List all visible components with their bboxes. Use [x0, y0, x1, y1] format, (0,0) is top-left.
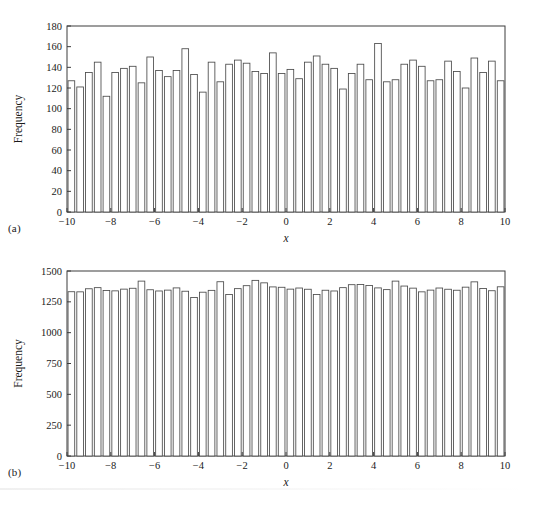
histogram-bar — [94, 62, 101, 212]
histogram-bar — [418, 66, 425, 212]
histogram-bar — [418, 292, 425, 456]
x-axis-title: x — [282, 476, 289, 488]
histogram-bar — [340, 288, 347, 456]
histogram-bar — [68, 292, 75, 456]
histogram-bar — [401, 64, 408, 212]
histogram-bar — [164, 77, 171, 212]
histogram-bar — [313, 294, 320, 456]
x-tick-label: 4 — [371, 216, 377, 227]
x-axis-title: x — [282, 232, 289, 244]
x-tick-label: 6 — [415, 460, 420, 471]
histogram-bar — [427, 290, 434, 456]
histogram-bar — [366, 80, 373, 212]
histogram-bar — [296, 288, 303, 456]
histogram-bar — [497, 81, 504, 212]
x-tick-label: −4 — [193, 216, 205, 227]
histogram-bar — [112, 73, 119, 213]
histogram-bar — [243, 286, 250, 456]
y-tick-label: 1500 — [41, 266, 62, 277]
histogram-bar — [348, 74, 355, 212]
x-tick-label: 2 — [327, 216, 332, 227]
histogram-bar — [453, 290, 460, 456]
x-tick-label: 0 — [283, 460, 288, 471]
histogram-bar — [121, 68, 128, 212]
histogram-bar — [234, 60, 241, 212]
histogram-bar — [252, 71, 259, 212]
histogram-bar — [357, 64, 364, 212]
panel-b-label: (b) — [8, 466, 21, 478]
y-tick-label: 500 — [46, 389, 62, 400]
histogram-bar — [313, 56, 320, 212]
histogram-bar — [94, 288, 101, 456]
histogram-bar — [103, 96, 110, 212]
histogram-bar — [77, 292, 84, 456]
x-tick-label: 8 — [459, 216, 464, 227]
chart-panel-a: (a) −10−8−6−4−20246810020406080100120140… — [0, 0, 536, 256]
x-tick-label: 4 — [371, 460, 377, 471]
x-tick-label: 6 — [415, 216, 420, 227]
histogram-bar — [436, 80, 443, 212]
histogram-bar — [191, 298, 198, 456]
histogram-bar — [453, 71, 460, 212]
x-tick-label: −4 — [193, 460, 205, 471]
histogram-bar — [480, 73, 487, 213]
histogram-bar — [357, 284, 364, 456]
x-tick-label: −6 — [149, 216, 160, 227]
histogram-bar — [471, 58, 478, 212]
histogram-bar — [296, 79, 303, 212]
histogram-bar — [191, 75, 198, 212]
histogram-bar — [217, 282, 224, 456]
histogram-bar — [243, 63, 250, 212]
histogram-bar — [305, 62, 312, 212]
histogram-bar — [77, 87, 84, 212]
y-tick-label: 250 — [46, 420, 62, 431]
histogram-bar — [103, 290, 110, 456]
histogram-b-svg: −10−8−6−4−202468100250500750100012501500… — [0, 256, 536, 512]
histogram-bar — [129, 66, 136, 212]
histogram-bar — [156, 291, 163, 456]
histogram-bar — [112, 291, 119, 456]
histogram-bar — [147, 57, 154, 212]
y-tick-label: 0 — [57, 207, 62, 218]
histogram-bar — [278, 74, 285, 212]
x-tick-label: −10 — [59, 460, 75, 471]
histogram-bar — [340, 89, 347, 212]
histogram-bar — [173, 70, 180, 212]
histogram-bar — [208, 290, 215, 456]
histogram-bar — [270, 53, 277, 212]
y-axis-title: Frequency — [12, 94, 25, 143]
histogram-bar — [375, 44, 382, 212]
histogram-bar — [261, 74, 268, 212]
bars-group — [68, 44, 504, 212]
histogram-bar — [427, 81, 434, 212]
histogram-bar — [375, 288, 382, 456]
x-tick-label: 10 — [500, 460, 511, 471]
histogram-bar — [208, 62, 215, 212]
histogram-bar — [401, 286, 408, 456]
histogram-bar — [129, 288, 136, 456]
histogram-bar — [462, 88, 469, 212]
histogram-bar — [278, 287, 285, 456]
histogram-bar — [383, 82, 390, 212]
x-tick-label: 8 — [459, 460, 464, 471]
histogram-bar — [147, 290, 154, 456]
y-tick-label: 750 — [46, 358, 62, 369]
y-tick-label: 1250 — [41, 296, 62, 307]
x-tick-label: −6 — [149, 460, 160, 471]
histogram-bar — [497, 287, 504, 456]
histogram-bar — [182, 49, 189, 212]
histogram-bar — [287, 289, 294, 456]
histogram-bar — [322, 290, 329, 456]
histogram-bar — [199, 292, 206, 456]
histogram-bar — [348, 285, 355, 456]
histogram-bar — [199, 92, 206, 212]
histogram-bar — [173, 288, 180, 456]
histogram-bar — [462, 287, 469, 456]
histogram-a-svg: −10−8−6−4−202468100204060801001201401601… — [0, 0, 536, 256]
histogram-bar — [252, 280, 259, 456]
histogram-bar — [164, 290, 171, 456]
histogram-bar — [270, 287, 277, 456]
histogram-bar — [445, 61, 452, 212]
x-tick-label: −2 — [237, 460, 248, 471]
histogram-bar — [86, 73, 93, 213]
